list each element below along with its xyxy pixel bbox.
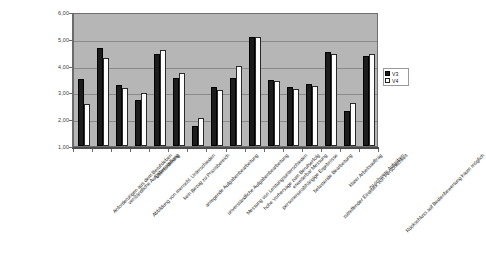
y-axis	[72, 13, 74, 148]
bar-group	[227, 66, 246, 146]
bar-group	[303, 84, 322, 146]
bar-v4	[122, 88, 128, 146]
plot-area	[73, 13, 378, 147]
x-axis-tick-mark	[92, 149, 93, 152]
bar-v4	[369, 54, 375, 146]
x-axis-tick-mark	[264, 149, 265, 152]
category-label: anregende Aufgabenbearbeitung	[204, 153, 259, 208]
bar-group	[112, 85, 131, 146]
x-axis-tick-mark	[321, 149, 322, 152]
bar-v4	[198, 118, 204, 146]
bar-group	[322, 52, 341, 146]
bar-group	[207, 87, 226, 146]
y-axis-tick-label: 3,00	[35, 90, 69, 96]
y-axis-tick-label: 6,00	[35, 10, 69, 16]
bar-v4	[312, 86, 318, 146]
bar-group	[341, 103, 360, 146]
bar-v4	[84, 104, 90, 146]
bar-v4	[179, 73, 185, 146]
x-axis-tick-mark	[149, 149, 150, 152]
x-axis-tick-mark	[187, 149, 188, 152]
bar-v4	[255, 37, 261, 146]
bar-group	[246, 37, 265, 146]
legend-swatch-v3-icon	[385, 71, 390, 76]
bar-v4	[236, 66, 242, 146]
legend-swatch-v4-icon	[385, 78, 390, 83]
y-axis-tick-mark	[69, 40, 73, 41]
legend: V3 V4	[383, 68, 409, 86]
bar-v4	[103, 58, 109, 146]
y-axis-tick-mark	[69, 120, 73, 121]
legend-item-v4: V4	[385, 77, 407, 84]
y-axis-tick-label: 4,00	[35, 64, 69, 70]
y-axis-tick-label: 2,00	[35, 117, 69, 123]
category-label: Rückschluss auf Bedienbewertung kaum mög…	[405, 153, 486, 234]
bar-v4	[217, 90, 223, 146]
y-axis-tick-mark	[69, 67, 73, 68]
x-axis-tick-mark	[130, 149, 131, 152]
bar-group	[150, 50, 169, 146]
bar-group	[131, 93, 150, 146]
bar-group	[93, 48, 112, 146]
y-axis-tick-mark	[69, 13, 73, 14]
bar-group	[360, 54, 379, 146]
x-axis-tick-mark	[302, 149, 303, 152]
y-axis-tick-mark	[69, 93, 73, 94]
x-axis-tick-mark	[206, 149, 207, 152]
bar-v4	[293, 89, 299, 146]
x-axis-tick-mark	[111, 149, 112, 152]
legend-label-v4: V4	[392, 78, 398, 84]
y-axis-tick-mark	[69, 147, 73, 148]
x-axis-tick-mark	[73, 149, 74, 152]
y-axis-tick-label: 5,00	[35, 37, 69, 43]
x-axis-tick-mark	[359, 149, 360, 152]
bar-v4	[274, 81, 280, 146]
x-axis-tick-mark	[245, 149, 246, 152]
bar-group	[188, 118, 207, 146]
legend-item-v3: V3	[385, 70, 407, 77]
bar-v4	[141, 93, 147, 146]
bar-group	[284, 87, 303, 146]
bar-v4	[350, 103, 356, 146]
bar-v4	[331, 54, 337, 146]
bar-group	[74, 79, 93, 146]
bars-layer	[74, 14, 377, 146]
bar-group	[169, 73, 188, 146]
y-axis-tick-label: 1,00	[35, 144, 69, 150]
x-axis-tick-mark	[340, 149, 341, 152]
x-axis-tick-mark	[283, 149, 284, 152]
bar-v4	[160, 50, 166, 146]
legend-label-v3: V3	[392, 71, 398, 77]
bar-group	[265, 80, 284, 146]
